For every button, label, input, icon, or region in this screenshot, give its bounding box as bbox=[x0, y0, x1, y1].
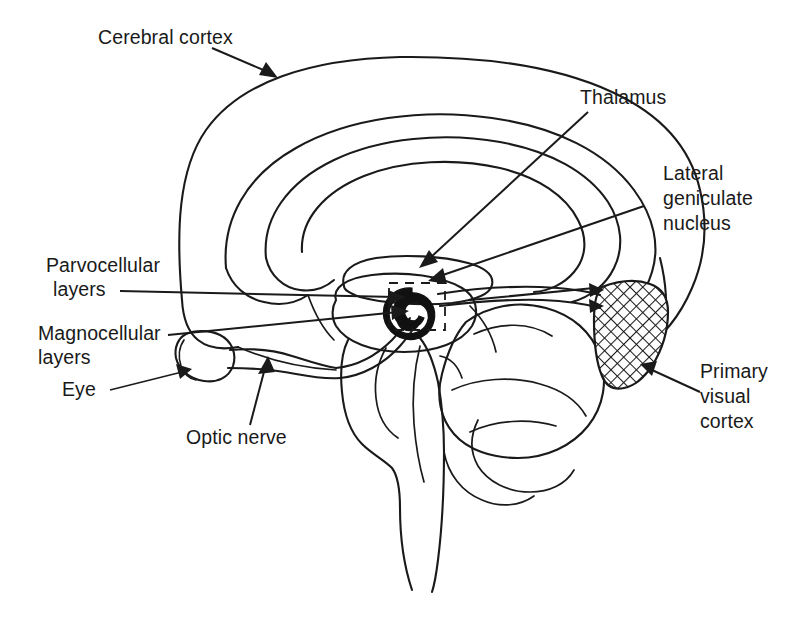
visual-pathway-diagram: Cerebral cortex Thalamus Lateral genicul… bbox=[0, 0, 807, 627]
brainstem-pons-bulge bbox=[375, 348, 398, 438]
label-eye: Eye bbox=[62, 378, 96, 400]
label-primary-visual-cortex-line2: visual bbox=[700, 385, 750, 407]
cortex-inferior-margin bbox=[182, 300, 238, 348]
cerebellum-folium-2 bbox=[452, 379, 586, 416]
cerebral-cortex-arrowhead bbox=[259, 62, 278, 78]
label-parvocellular-layers-line1: Parvocellular bbox=[46, 254, 160, 276]
label-primary-visual-cortex-line1: Primary bbox=[700, 360, 768, 382]
label-primary-visual-cortex-line3: cortex bbox=[700, 410, 754, 432]
thalamus-leader bbox=[430, 112, 588, 258]
label-lateral-geniculate-nucleus-line1: Lateral bbox=[663, 162, 723, 184]
corpus-callosum-inner bbox=[226, 268, 308, 304]
figure-canvas: Cerebral cortex Thalamus Lateral genicul… bbox=[0, 0, 807, 627]
label-optic-nerve: Optic nerve bbox=[186, 426, 287, 448]
labels-group: Cerebral cortex Thalamus Lateral genicul… bbox=[38, 26, 768, 448]
label-parvocellular-layers-line2: layers bbox=[53, 278, 106, 300]
cerebellum-vermis-notch bbox=[472, 420, 574, 492]
cortex-to-brainstem-link bbox=[308, 295, 334, 340]
optic-nerve-leader bbox=[250, 368, 265, 425]
label-magnocellular-layers-line1: Magnocellular bbox=[38, 322, 161, 344]
magnocellular-leader bbox=[168, 312, 398, 335]
label-cerebral-cortex: Cerebral cortex bbox=[98, 26, 233, 48]
anatomy-group bbox=[175, 57, 704, 592]
label-lateral-geniculate-nucleus-line3: nucleus bbox=[663, 212, 731, 234]
brainstem-midline bbox=[413, 346, 424, 482]
optic-nerve-superior-border bbox=[230, 349, 336, 368]
eye-leader bbox=[110, 372, 182, 390]
label-lateral-geniculate-nucleus-line2: geniculate bbox=[663, 187, 753, 209]
ventricle-inner-contour bbox=[266, 258, 334, 290]
cerebellum-folium-3 bbox=[470, 421, 556, 432]
label-thalamus: Thalamus bbox=[580, 86, 667, 108]
primary-visual-cortex-leader bbox=[652, 370, 700, 392]
cerebral-cortex-leader bbox=[212, 48, 268, 72]
basal-surface-contour bbox=[238, 347, 336, 370]
lgn-leader bbox=[440, 206, 644, 276]
cerebellum-outline bbox=[439, 304, 604, 458]
label-magnocellular-layers-line2: layers bbox=[38, 346, 91, 368]
